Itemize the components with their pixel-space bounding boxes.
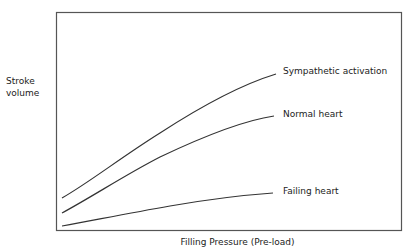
chart-canvas [0,0,413,250]
line-sympathetic-activation [62,74,276,198]
label-sympathetic-activation: Sympathetic activation [283,66,387,76]
line-failing-heart [62,193,273,226]
y-axis-label: Stroke volume [6,75,39,99]
line-normal-heart [62,116,274,213]
label-normal-heart: Normal heart [283,109,342,119]
x-axis-label: Filling Pressure (Pre-load) [0,237,413,247]
label-failing-heart: Failing heart [283,186,339,196]
y-axis-label-line2: volume [6,87,39,99]
y-axis-label-line1: Stroke [6,75,39,87]
